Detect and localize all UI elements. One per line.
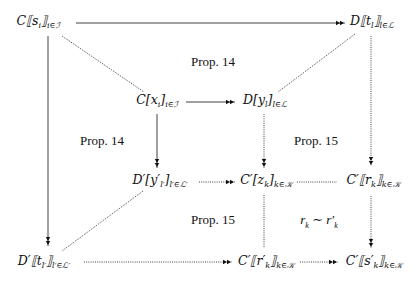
node-cp-z-main: C′[z [240, 172, 264, 187]
node-dp-tp: D′⟦tl′⟧l′∈ℒ′ [18, 255, 70, 270]
node-d-t-index: l∈ℒ [380, 21, 394, 30]
node-cp-r-index: k∈𝒦 [382, 180, 400, 189]
node-cp-rp-index: k∈𝒦 [276, 261, 294, 270]
node-dp-tp-main: D′⟦t [18, 253, 42, 268]
node-dp-yp-index: l′∈ℒ′ [169, 180, 187, 189]
label-prop14-top: Prop. 14 [191, 54, 235, 70]
node-c-s-index: i∈ℐ [47, 21, 59, 30]
node-dp-tp-index: l′∈ℒ′ [52, 261, 70, 270]
node-cp-z-index: k∈𝒦 [274, 180, 292, 189]
node-c-x: C[xi]i∈ℐ [136, 94, 177, 109]
edge-dpy-dpt-dotted [62, 191, 143, 251]
node-dp-yp-main: D′[y′ [132, 172, 160, 187]
node-c-x-index: i∈ℐ [165, 100, 177, 109]
node-cp-rp-main: C′⟦r′ [238, 253, 265, 268]
label-prop15-right: Prop. 15 [294, 133, 338, 149]
node-dp-yp: D′[y′l′]l′∈ℒ′ [132, 174, 187, 189]
label-prop15-bottom: Prop. 15 [191, 212, 235, 228]
label-relation: rk ∼ r′k [300, 212, 338, 230]
node-d-t: D⟦tl⟧l∈ℒ [350, 15, 394, 30]
node-c-x-main: C[x [136, 92, 158, 107]
relation-right: r′ [326, 212, 334, 227]
edge-dt-dy-dotted [278, 34, 355, 92]
node-d-t-main: D⟦t [350, 13, 371, 28]
label-prop14-left: Prop. 14 [80, 133, 124, 149]
node-c-s-main: C⟦s [16, 13, 38, 28]
node-d-y: D[yl]l∈ℒ [243, 94, 287, 109]
diagram-edges [0, 0, 420, 282]
node-cp-r-main: C′⟦r [346, 172, 370, 187]
edge-cs-cx-dotted [62, 36, 144, 92]
node-cp-sp-index: k∈𝒦 [384, 261, 402, 270]
node-cp-rp: C′⟦r′k⟧k∈𝒦 [238, 255, 294, 270]
node-cp-z: C′[zk]k∈𝒦 [240, 174, 291, 189]
node-cp-sp: C′⟦s′k⟧k∈𝒦 [346, 255, 402, 270]
relation-right-sub: k [334, 221, 338, 230]
node-d-y-index: l∈ℒ [272, 100, 286, 109]
relation-op: ∼ [309, 212, 326, 227]
node-c-s: C⟦si⟧i∈ℐ [16, 15, 59, 30]
node-d-y-main: D[y [243, 92, 265, 107]
node-cp-r: C′⟦rk⟧k∈𝒦 [346, 174, 399, 189]
node-cp-sp-main: C′⟦s′ [346, 253, 374, 268]
